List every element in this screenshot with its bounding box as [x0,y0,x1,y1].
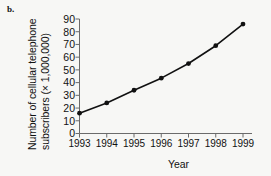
x-axis-title: Year [0,158,271,170]
x-axis-tick-labels: 1993199419951996199719981999 [0,0,271,176]
x-axis-title-text: Year [168,158,189,170]
x-axis-tick-label: 1993 [65,139,95,149]
figure-panel-b: b. Number of cellular telephone subscrib… [0,0,271,176]
x-axis-tick-label: 1999 [228,139,258,149]
x-axis-tick-label: 1996 [146,139,176,149]
x-axis-tick-label: 1995 [119,139,149,149]
x-axis-tick-label: 1994 [92,139,122,149]
x-axis-tick-label: 1998 [201,139,231,149]
x-axis-tick-label: 1997 [174,139,204,149]
